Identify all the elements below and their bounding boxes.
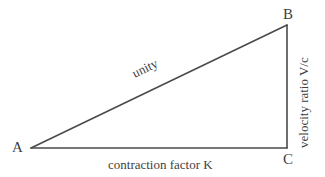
triangle-diagram xyxy=(0,0,325,177)
figure-canvas: A B C unity contraction factor K velocit… xyxy=(0,0,325,177)
base-label: contraction factor K xyxy=(108,158,213,171)
vertex-label-c: C xyxy=(283,152,293,167)
vertical-side-label: velocity ratio V/c xyxy=(297,57,310,148)
triangle-side-hypotenuse xyxy=(31,25,287,148)
vertex-label-a: A xyxy=(12,140,23,155)
vertex-label-b: B xyxy=(283,7,293,22)
